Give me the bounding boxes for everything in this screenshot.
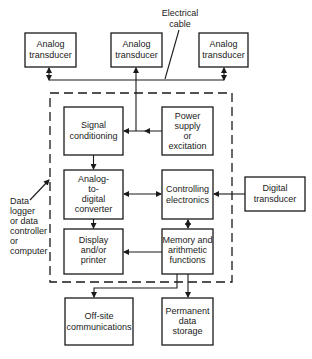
analog-transducer-1-label-1: Analog: [36, 39, 64, 49]
power-supply-label-4: excitation: [168, 141, 206, 151]
signal-conditioning-label-2: conditioning: [69, 131, 117, 141]
display-label-3: printer: [81, 255, 107, 265]
memory-arithmetic-box: Memory and arithmetic functions: [162, 229, 213, 274]
controlling-label-2: electronics: [166, 195, 210, 205]
data-logger-annotation: Data logger or data controller or comput…: [10, 180, 49, 256]
analog-transducer-1-label-2: transducer: [29, 50, 72, 60]
analog-transducer-3-label-2: transducer: [202, 50, 245, 60]
adc-label-1: Analog-: [78, 174, 109, 184]
power-supply-label-1: Power: [175, 111, 201, 121]
offsite-label-1: Off-site: [85, 311, 114, 321]
offsite-communications-box: Off-site communications: [65, 298, 133, 345]
permanent-storage-box: Permanent data storage: [162, 298, 213, 345]
data-logger-label-4: controller: [10, 226, 47, 236]
display-label-1: Display: [79, 235, 109, 245]
digital-transducer-label-1: Digital: [262, 183, 287, 193]
permanent-label-1: Permanent: [165, 306, 210, 316]
signal-conditioning-label-1: Signal: [81, 120, 106, 130]
display-label-2: and/or: [81, 245, 107, 255]
data-logger-block-diagram: Electrical cable Analog transducer Analo…: [0, 0, 312, 359]
display-printer-box: Display and/or printer: [64, 229, 123, 274]
data-logger-label-1: Data: [10, 196, 29, 206]
controlling-electronics-box: Controlling electronics: [162, 170, 213, 219]
adc-label-2: to-: [88, 184, 99, 194]
memory-label-3: functions: [169, 255, 206, 265]
controlling-label-1: Controlling: [166, 184, 209, 194]
analog-transducer-3-label-1: Analog: [209, 39, 237, 49]
digital-transducer-label-2: transducer: [254, 194, 297, 204]
digital-transducer-box: Digital transducer: [245, 177, 305, 211]
power-supply-box: Power supply or excitation: [162, 107, 213, 155]
memory-label-1: Memory and: [162, 235, 212, 245]
analog-transducer-2: Analog transducer: [111, 33, 162, 67]
analog-transducer-1: Analog transducer: [25, 33, 76, 67]
permanent-label-3: storage: [172, 326, 202, 336]
adc-box: Analog- to- digital converter: [64, 170, 123, 219]
data-logger-label-3: or data: [10, 216, 38, 226]
data-logger-label-6: computer: [10, 246, 48, 256]
electrical-cable-label-line1: Electrical: [162, 8, 199, 18]
electrical-cable-label-line2: cable: [169, 19, 191, 29]
data-logger-label-2: logger: [10, 206, 35, 216]
data-logger-label-5: or: [10, 236, 18, 246]
permanent-label-2: data: [179, 316, 197, 326]
electrical-cable-pointer: [165, 30, 179, 79]
power-arrowhead: [144, 128, 150, 134]
electrical-cable-annotation: Electrical cable: [162, 8, 199, 79]
power-supply-label-2: supply: [174, 121, 201, 131]
analog-transducer-3: Analog transducer: [199, 33, 248, 67]
memory-to-offsite-arrow: [94, 274, 177, 297]
signal-conditioning-box: Signal conditioning: [64, 107, 123, 155]
memory-label-2: arithmetic: [168, 245, 208, 255]
analog-transducer-2-label-2: transducer: [115, 50, 158, 60]
power-supply-label-3: or: [183, 131, 191, 141]
adc-label-4: converter: [75, 204, 113, 214]
data-logger-pointer: [30, 180, 49, 200]
offsite-label-2: communications: [66, 322, 132, 332]
adc-label-3: digital: [82, 194, 106, 204]
analog-transducer-2-label-1: Analog: [122, 39, 150, 49]
